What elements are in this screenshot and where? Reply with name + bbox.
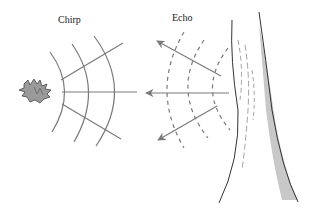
echo-wavefront-2 bbox=[188, 40, 208, 138]
echo-label: Echo bbox=[172, 12, 193, 23]
echo-ray-up bbox=[157, 41, 221, 76]
echo-rays bbox=[146, 41, 229, 140]
echolocation-diagram: Chirp Echo bbox=[0, 0, 316, 210]
echo-ray-down bbox=[158, 106, 217, 140]
diagram-svg bbox=[0, 0, 316, 210]
echo-wavefronts bbox=[167, 32, 230, 148]
chirp-wavefront-2 bbox=[72, 44, 89, 142]
echo-wavefront-3 bbox=[212, 48, 230, 130]
chirp-rays bbox=[61, 43, 137, 139]
tree-trunk-icon bbox=[219, 12, 298, 203]
chirp-ray-up bbox=[61, 43, 123, 80]
chirp-label: Chirp bbox=[58, 14, 81, 25]
bat-icon bbox=[19, 79, 51, 103]
